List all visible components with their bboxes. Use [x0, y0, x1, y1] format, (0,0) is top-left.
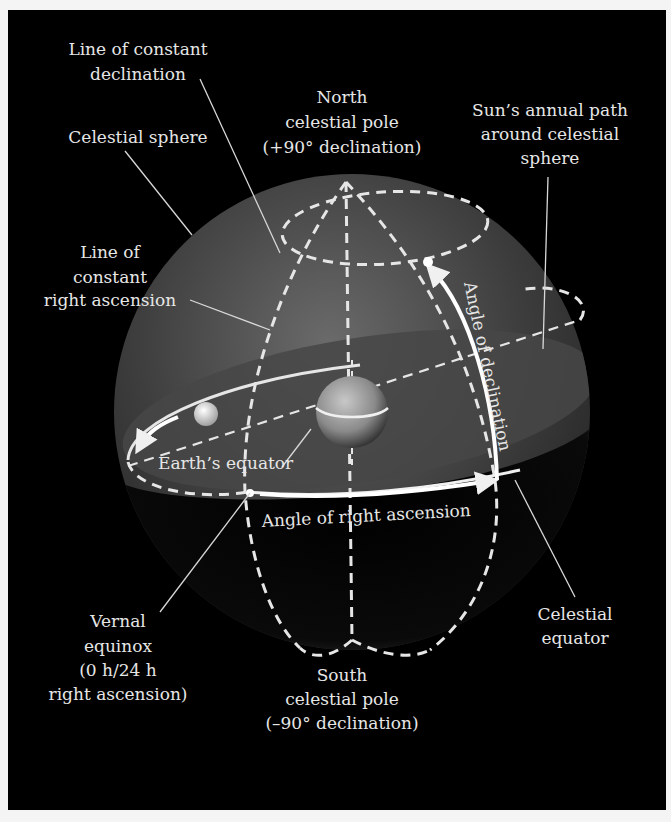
svg-text:equinox: equinox — [84, 636, 153, 656]
label-vernal-equinox: Vernal equinox (0 h/24 h right ascension… — [49, 611, 188, 704]
svg-text:constant: constant — [73, 267, 147, 287]
svg-text:celestial pole: celestial pole — [285, 689, 399, 709]
svg-text:North: North — [316, 87, 367, 107]
svg-text:right ascension): right ascension) — [49, 684, 188, 704]
svg-text:Sun’s annual path: Sun’s annual path — [472, 100, 628, 120]
star-point — [423, 257, 433, 267]
svg-text:equator: equator — [541, 628, 609, 648]
svg-text:Line of constant: Line of constant — [68, 39, 207, 59]
label-suns-annual-path: Sun’s annual path around celestial spher… — [472, 100, 628, 168]
svg-text:Earth’s equator: Earth’s equator — [158, 453, 294, 473]
label-south-celestial-pole: South celestial pole (–90° declination) — [265, 665, 418, 733]
svg-text:Vernal: Vernal — [89, 611, 145, 631]
celestial-sphere-diagram: Line of constant declination North celes… — [0, 0, 671, 822]
svg-text:celestial pole: celestial pole — [285, 112, 399, 132]
label-line-constant-declination: Line of constant declination — [68, 39, 207, 84]
svg-text:(+90° declination): (+90° declination) — [263, 137, 422, 157]
svg-text:(–90° declination): (–90° declination) — [265, 713, 418, 733]
svg-text:Celestial sphere: Celestial sphere — [68, 127, 207, 147]
svg-text:Line of: Line of — [80, 242, 141, 262]
svg-text:around celestial: around celestial — [481, 124, 619, 144]
svg-text:Celestial: Celestial — [537, 604, 612, 624]
label-earths-equator: Earth’s equator — [158, 453, 294, 473]
svg-text:sphere: sphere — [521, 148, 580, 168]
svg-text:right ascension: right ascension — [44, 290, 176, 310]
svg-text:(0 h/24 h: (0 h/24 h — [79, 660, 157, 680]
label-celestial-equator: Celestial equator — [537, 604, 612, 648]
svg-text:declination: declination — [90, 64, 186, 84]
label-line-constant-right-ascension: Line of constant right ascension — [44, 242, 176, 310]
label-north-celestial-pole: North celestial pole (+90° declination) — [263, 87, 422, 157]
label-celestial-sphere: Celestial sphere — [68, 127, 207, 147]
svg-text:South: South — [317, 665, 368, 685]
